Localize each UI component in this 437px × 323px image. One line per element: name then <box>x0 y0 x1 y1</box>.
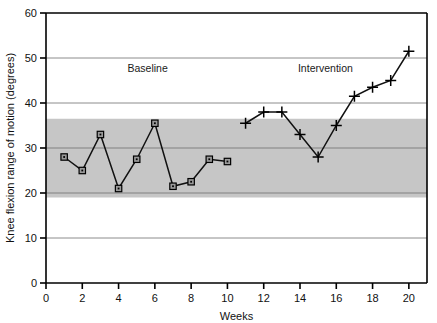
data-point[interactable] <box>258 107 269 118</box>
y-tick-label-40: 40 <box>25 97 37 109</box>
x-tick-label-18: 18 <box>366 292 378 304</box>
x-tick-label-6: 6 <box>152 292 158 304</box>
x-tick-label-8: 8 <box>188 292 194 304</box>
x-tick-label-10: 10 <box>221 292 233 304</box>
data-point[interactable] <box>115 185 121 191</box>
chart-container: 010203040506002468101214161820WeeksKnee … <box>0 0 437 323</box>
y-axis-title: Knee flexion range of motion (degrees) <box>4 53 16 243</box>
data-point[interactable] <box>152 120 158 126</box>
marker-center-dot <box>63 156 65 158</box>
y-tick-label-50: 50 <box>25 52 37 64</box>
data-point[interactable] <box>224 158 230 164</box>
marker-center-dot <box>154 122 156 124</box>
y-tick-label-0: 0 <box>31 277 37 289</box>
data-point[interactable] <box>170 183 176 189</box>
knee-flexion-line-chart: 010203040506002468101214161820WeeksKnee … <box>0 0 437 323</box>
phase-label-baseline: Baseline <box>127 62 167 74</box>
data-point[interactable] <box>188 179 194 185</box>
reference-band <box>46 119 427 198</box>
marker-center-dot <box>208 158 210 160</box>
data-point[interactable] <box>349 91 360 102</box>
marker-center-dot <box>81 170 83 172</box>
marker-center-dot <box>227 161 229 163</box>
data-point[interactable] <box>385 75 396 86</box>
marker-center-dot <box>172 185 174 187</box>
marker-center-dot <box>100 134 102 136</box>
data-point[interactable] <box>206 156 212 162</box>
x-tick-label-2: 2 <box>79 292 85 304</box>
phase-label-intervention: Intervention <box>298 62 353 74</box>
data-point[interactable] <box>134 156 140 162</box>
data-point[interactable] <box>403 46 414 57</box>
y-tick-label-10: 10 <box>25 232 37 244</box>
x-tick-label-0: 0 <box>43 292 49 304</box>
marker-center-dot <box>190 181 192 183</box>
data-point[interactable] <box>97 131 103 137</box>
data-point[interactable] <box>61 154 67 160</box>
y-tick-label-20: 20 <box>25 187 37 199</box>
marker-center-dot <box>118 188 120 190</box>
x-tick-label-16: 16 <box>330 292 342 304</box>
x-tick-label-20: 20 <box>403 292 415 304</box>
x-axis-title: Weeks <box>220 310 254 322</box>
y-tick-label-30: 30 <box>25 142 37 154</box>
y-tick-label-60: 60 <box>25 7 37 19</box>
x-tick-label-4: 4 <box>116 292 122 304</box>
x-tick-label-12: 12 <box>258 292 270 304</box>
data-point[interactable] <box>367 82 378 93</box>
marker-center-dot <box>136 158 138 160</box>
data-point[interactable] <box>79 167 85 173</box>
x-tick-label-14: 14 <box>294 292 306 304</box>
